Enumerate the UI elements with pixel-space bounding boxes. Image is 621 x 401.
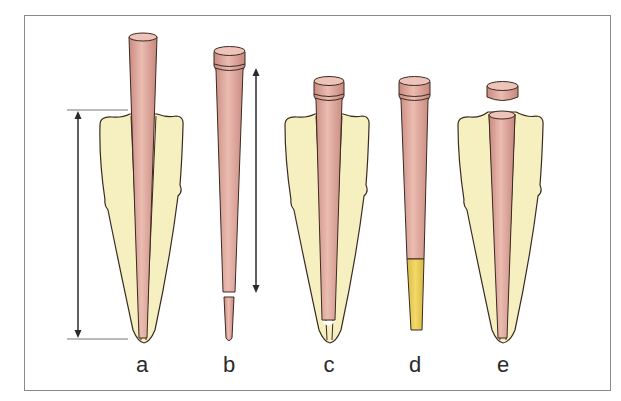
panel-label-e: e [488, 354, 518, 376]
panel-label-c: c [314, 354, 344, 376]
double-arrow-icon [75, 111, 82, 338]
panel-b [214, 47, 260, 341]
panel-label-a: a [127, 354, 157, 376]
panel-e [458, 82, 543, 344]
double-arrow-icon [253, 68, 260, 293]
panel-a [67, 33, 183, 343]
dental-diagram [0, 0, 621, 401]
cone-b [214, 52, 245, 292]
cone-b-tip [224, 297, 234, 341]
cone-d [399, 82, 430, 259]
panel-label-b: b [214, 354, 244, 376]
cone-d-coated-tip [407, 259, 424, 330]
panel-label-d: d [400, 354, 430, 376]
panel-d [399, 77, 430, 331]
panel-c [285, 77, 369, 344]
